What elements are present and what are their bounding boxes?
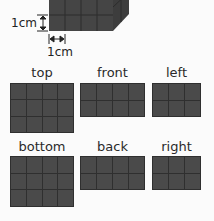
grid-cell xyxy=(81,84,96,100)
grid-cell xyxy=(113,84,128,100)
grid-cell xyxy=(97,174,112,190)
grid-cell xyxy=(58,117,73,132)
grid-cell xyxy=(27,84,42,99)
grid-cell xyxy=(113,174,128,190)
grid-cell xyxy=(58,157,73,173)
unit-width-label: 1cm xyxy=(47,45,73,59)
grid-cell xyxy=(129,101,144,117)
cuboid-diagram xyxy=(0,0,214,60)
view-label-top: top xyxy=(10,66,74,80)
grid-cell xyxy=(113,157,128,173)
grid-cell xyxy=(185,101,200,117)
view-label-left: left xyxy=(152,66,201,80)
grid-cell xyxy=(129,84,144,100)
grid-cell xyxy=(27,100,42,115)
grid-cell xyxy=(169,101,184,117)
grid-cell xyxy=(27,190,42,206)
grid-cell xyxy=(43,190,58,206)
grid-cell xyxy=(11,174,26,190)
view-label-bottom: bottom xyxy=(10,140,74,154)
grid-cell xyxy=(43,174,58,190)
grid-cell xyxy=(97,84,112,100)
grid-cell xyxy=(153,174,168,190)
grid-cell xyxy=(11,100,26,115)
view-grid-back xyxy=(80,156,145,190)
grid-cell xyxy=(58,100,73,115)
grid-cell xyxy=(43,100,58,115)
grid-cell xyxy=(81,157,96,173)
grid-cell xyxy=(113,101,128,117)
view-grid-top xyxy=(10,83,74,133)
grid-cell xyxy=(153,84,168,100)
grid-cell xyxy=(169,84,184,100)
grid-cell xyxy=(11,157,26,173)
grid-cell xyxy=(97,157,112,173)
view-label-back: back xyxy=(80,140,145,154)
grid-cell xyxy=(185,174,200,190)
grid-cell xyxy=(185,84,200,100)
grid-cell xyxy=(97,101,112,117)
grid-cell xyxy=(43,157,58,173)
grid-cell xyxy=(169,157,184,173)
grid-cell xyxy=(169,174,184,190)
view-label-right: right xyxy=(152,140,201,154)
grid-cell xyxy=(129,174,144,190)
view-label-front: front xyxy=(80,66,145,80)
unit-height-label: 1cm xyxy=(11,16,37,30)
grid-cell xyxy=(27,117,42,132)
grid-cell xyxy=(81,101,96,117)
grid-cell xyxy=(11,84,26,99)
grid-cell xyxy=(43,84,58,99)
grid-cell xyxy=(27,174,42,190)
grid-cell xyxy=(153,157,168,173)
grid-cell xyxy=(58,84,73,99)
grid-cell xyxy=(129,157,144,173)
grid-cell xyxy=(27,157,42,173)
view-grid-right xyxy=(152,156,201,190)
grid-cell xyxy=(58,190,73,206)
view-grid-bottom xyxy=(10,156,74,207)
view-grid-left xyxy=(152,83,201,117)
grid-cell xyxy=(43,117,58,132)
grid-cell xyxy=(81,174,96,190)
grid-cell xyxy=(153,101,168,117)
view-grid-front xyxy=(80,83,145,117)
grid-cell xyxy=(11,117,26,132)
grid-cell xyxy=(185,157,200,173)
grid-cell xyxy=(58,174,73,190)
grid-cell xyxy=(11,190,26,206)
